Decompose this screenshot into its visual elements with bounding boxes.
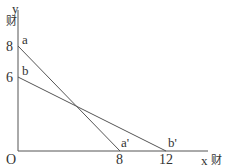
- point-a-label: a: [22, 33, 28, 46]
- line-aa: [18, 46, 120, 151]
- point-b-prime-label: b': [168, 136, 177, 149]
- x-axis-unit: 财: [211, 154, 222, 167]
- y-tick-8: 8: [6, 40, 13, 53]
- x-tick-8: 8: [116, 153, 123, 166]
- point-b-label: b: [22, 64, 29, 77]
- x-tick-12: 12: [159, 153, 173, 166]
- y-axis-unit: 财: [6, 15, 17, 28]
- line-bb: [18, 77, 166, 151]
- diagram-canvas: [0, 0, 233, 168]
- y-tick-6: 6: [6, 71, 13, 84]
- point-a-prime-label: a': [121, 136, 129, 149]
- x-axis-label: x: [201, 154, 208, 167]
- origin-label: O: [6, 153, 16, 166]
- y-axis-label: y: [12, 2, 19, 15]
